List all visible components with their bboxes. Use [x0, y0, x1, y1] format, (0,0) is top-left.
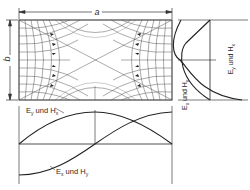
- bottom-label-ey-hx: Ey und Hx: [26, 106, 59, 116]
- waveguide-diagram: a b: [0, 0, 250, 190]
- right-label-ex-hy: Ex und Hy: [181, 79, 190, 110]
- bottom-label-ex-hy: Ex und Hy: [56, 167, 89, 177]
- field-mesh: [19, 20, 172, 100]
- dimension-b-label: b: [2, 56, 12, 61]
- right-label-ey-hx: Ey und Hx: [227, 44, 236, 75]
- bottom-field-plot: [19, 106, 172, 184]
- dimension-a-label: a: [94, 7, 99, 17]
